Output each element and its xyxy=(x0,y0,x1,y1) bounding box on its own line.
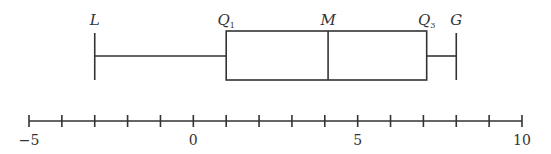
box-plot-chart: −50510 LQ1MQ3G xyxy=(0,0,551,154)
box-plot xyxy=(95,31,457,80)
tick-label: −5 xyxy=(19,132,40,148)
label-letter: Q xyxy=(418,11,430,29)
label-q1: Q1 xyxy=(217,11,234,30)
interquartile-box xyxy=(226,31,426,80)
label-letter: L xyxy=(89,11,100,29)
label-min: L xyxy=(89,11,100,29)
tick-label: 5 xyxy=(353,132,362,148)
label-letter: Q xyxy=(217,11,229,29)
label-letter: G xyxy=(450,11,462,29)
label-max: G xyxy=(450,11,462,29)
label-letter: M xyxy=(319,11,336,29)
number-line-axis: −50510 xyxy=(19,115,531,148)
tick-label: 0 xyxy=(189,132,198,148)
tick-label: 10 xyxy=(513,132,531,148)
label-q3: Q3 xyxy=(418,11,435,30)
label-subscript: 1 xyxy=(230,21,235,30)
annotation-labels: LQ1MQ3G xyxy=(89,11,463,30)
label-subscript: 3 xyxy=(430,21,435,30)
label-median: M xyxy=(319,11,336,29)
